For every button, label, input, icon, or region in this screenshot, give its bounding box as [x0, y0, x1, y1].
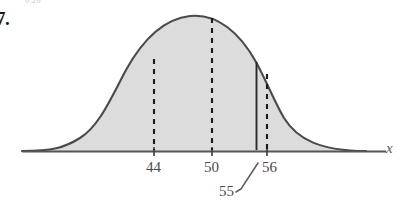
tick-label-56: 56	[262, 159, 277, 176]
callout-label-55: 55	[219, 183, 234, 200]
tick-label-50: 50	[204, 159, 219, 176]
shaded-region	[22, 16, 366, 151]
x-axis-label: x	[386, 140, 393, 157]
normal-distribution-chart	[0, 0, 397, 200]
figure-canvas: 0.20 7. 44 50 56 55 x	[0, 0, 397, 200]
tick-label-44: 44	[146, 159, 161, 176]
callout-leader-line	[236, 163, 258, 192]
